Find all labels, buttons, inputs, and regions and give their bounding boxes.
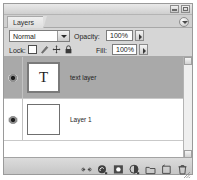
link-layers-button[interactable] [81,161,92,172]
eye-icon[interactable] [8,74,18,82]
fill-input[interactable]: 100% [112,44,137,55]
window-controls [170,5,190,13]
visibility-cell[interactable] [4,99,23,140]
new-group-button[interactable] [145,161,156,172]
blend-opacity-row: Normal Opacity: 100% [4,28,192,43]
tab-layers[interactable]: Layers [7,16,44,28]
add-layer-mask-button[interactable] [113,161,124,172]
layers-panel-window: Layers Normal Opacity: 100% Lock: [3,3,193,175]
lock-icon-group [28,45,73,54]
layer-thumbnail-raster[interactable] [27,104,60,135]
text-layer-t-icon: T [39,70,48,85]
layers-panel-screenshot: Layers Normal Opacity: 100% Lock: [0,0,197,180]
lock-fill-row: Lock: [4,43,192,57]
layer-row-text-layer[interactable]: T text layer [4,57,192,99]
resize-grip-icon[interactable] [183,165,191,173]
layer-list[interactable]: T text layer Layer 1 [4,57,192,158]
lock-position-icon[interactable] [52,45,61,54]
chevron-down-icon[interactable] [57,31,69,41]
lock-transparent-pixels-icon[interactable] [28,45,37,54]
opacity-input[interactable]: 100% [106,30,133,41]
blend-mode-select[interactable]: Normal [9,30,70,42]
visibility-cell[interactable] [4,57,23,98]
blend-mode-value: Normal [13,33,36,40]
window-titlebar[interactable] [4,4,192,15]
close-button[interactable] [181,5,190,13]
panel-tabstrip: Layers [4,15,192,28]
new-fill-adjustment-layer-button[interactable] [129,161,140,172]
layer-name-layer-1[interactable]: Layer 1 [70,116,92,123]
layer-thumbnail-text[interactable]: T [27,62,60,93]
opacity-stepper-icon[interactable] [135,30,144,41]
new-layer-button[interactable] [161,161,172,172]
fill-label: Fill: [96,46,107,56]
toolbar-buttons [81,161,188,172]
panel-menu-icon[interactable] [179,17,189,27]
layers-panel-toolbar [4,157,192,174]
scroll-up-icon[interactable] [184,57,192,65]
layer-name-text-layer[interactable]: text layer [70,74,96,81]
minimize-button[interactable] [170,5,179,13]
opacity-label: Opacity: [74,32,100,42]
add-layer-style-button[interactable] [97,161,108,172]
layer-list-scrollbar[interactable] [183,57,192,158]
fill-stepper-icon[interactable] [139,44,148,55]
lock-all-icon[interactable] [64,45,73,54]
lock-image-pixels-icon[interactable] [40,45,49,54]
eye-icon[interactable] [8,116,18,124]
lock-label: Lock: [9,46,26,56]
layer-row-layer-1[interactable]: Layer 1 [4,99,192,141]
